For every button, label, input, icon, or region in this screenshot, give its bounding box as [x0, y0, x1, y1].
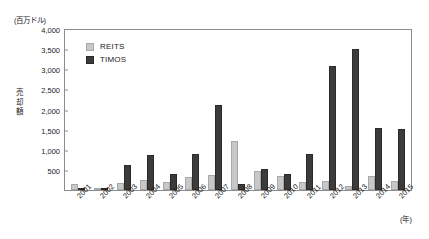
bar-group — [135, 30, 158, 190]
x-axis-label-cell: 2015 — [387, 191, 410, 231]
y-axis-tick-label: 500 — [47, 167, 65, 176]
bar-timos-2014 — [375, 128, 382, 190]
bar-reits-2010 — [277, 176, 284, 189]
bar-group — [181, 30, 204, 190]
y-axis-tick-label: 2,500 — [41, 86, 65, 95]
bar-group — [341, 30, 364, 190]
x-axis-labels: 2001200220032004200520062007200820092010… — [64, 191, 412, 231]
y-axis-tick-label: 2,000 — [41, 106, 65, 115]
bar-timos-2015 — [398, 129, 405, 190]
bar-reits-2009 — [254, 171, 261, 190]
x-axis-label-cell: 2002 — [89, 191, 112, 231]
y-axis-title-char-3: 額 — [14, 107, 24, 117]
legend-item-timos: TIMOS — [86, 55, 126, 64]
x-axis-label-cell: 2006 — [181, 191, 204, 231]
y-axis-title-char-2: 却 — [14, 98, 24, 108]
x-axis-label-cell: 2014 — [364, 191, 387, 231]
legend-item-reits: REITS — [86, 42, 126, 51]
chart-legend: REITS TIMOS — [86, 42, 126, 68]
x-axis-label-cell: 2004 — [135, 191, 158, 231]
x-axis-label-cell: 2003 — [112, 191, 135, 231]
sales-amount-bar-chart: (百万ドル) 売 却 額 4,0003,5003,0002,5002,0001,… — [0, 0, 429, 239]
bar-group — [318, 30, 341, 190]
x-axis-label-cell: 2011 — [295, 191, 318, 231]
bar-group — [204, 30, 227, 190]
bar-reits-2001 — [71, 184, 78, 189]
bar-reits-2005 — [163, 182, 170, 189]
bar-timos-2012 — [329, 66, 336, 190]
x-axis-label-cell: 2001 — [66, 191, 89, 231]
y-axis-tick-label: 3,500 — [41, 45, 65, 54]
y-axis-title: 売 却 額 — [14, 88, 24, 117]
bar-group — [295, 30, 318, 190]
bar-reits-2002 — [94, 188, 101, 190]
y-axis-tick-label: 4,000 — [41, 25, 65, 34]
bar-reits-2012 — [322, 181, 329, 189]
y-axis-unit-caption: (百万ドル) — [14, 14, 46, 25]
bar-timos-2007 — [215, 105, 222, 189]
y-axis-tick-label: 3,000 — [41, 66, 65, 75]
legend-swatch-reits-icon — [86, 43, 94, 51]
x-axis-label-cell: 2010 — [272, 191, 295, 231]
x-axis-unit-label: (年) — [400, 213, 412, 224]
legend-label-timos: TIMOS — [100, 55, 126, 64]
bar-group — [363, 30, 386, 190]
x-axis-label-cell: 2005 — [158, 191, 181, 231]
bar-timos-2011 — [306, 154, 313, 190]
bar-group — [227, 30, 250, 190]
x-axis-label-cell: 2009 — [250, 191, 273, 231]
bar-group — [386, 30, 409, 190]
x-axis-label-cell: 2007 — [204, 191, 227, 231]
bar-timos-2013 — [352, 49, 359, 190]
bar-reits-2003 — [117, 183, 124, 190]
bar-reits-2007 — [208, 175, 215, 189]
legend-label-reits: REITS — [100, 42, 125, 51]
bar-reits-2004 — [140, 180, 147, 189]
y-axis-tick-label: 1,500 — [41, 126, 65, 135]
y-axis-tick-label: 1,000 — [41, 147, 65, 156]
x-axis-label-cell: 2008 — [227, 191, 250, 231]
bar-group — [272, 30, 295, 190]
bar-reits-2011 — [299, 182, 306, 189]
legend-swatch-timos-icon — [86, 56, 94, 64]
y-axis-title-char-1: 売 — [14, 88, 24, 98]
bar-group — [249, 30, 272, 190]
x-axis-label-cell: 2013 — [341, 191, 364, 231]
bar-group — [158, 30, 181, 190]
x-axis-label-cell: 2012 — [318, 191, 341, 231]
bar-reits-2008 — [231, 141, 238, 190]
bar-reits-2006 — [185, 177, 192, 189]
